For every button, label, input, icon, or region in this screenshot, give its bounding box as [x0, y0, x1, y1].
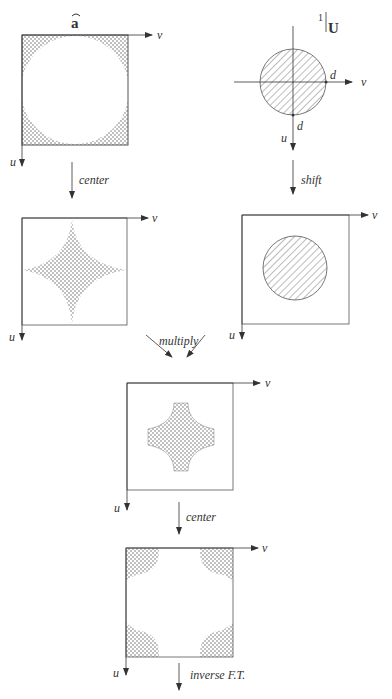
d-marker-v: d [297, 119, 304, 133]
v-axis-label: v [265, 376, 271, 390]
v-axis-label: v [157, 28, 163, 42]
v-axis-label: v [361, 75, 367, 89]
center-arrow-2: center [179, 502, 216, 534]
shift-arrow: shift [293, 160, 322, 194]
panel-title: U [328, 20, 339, 36]
v-axis-label: v [262, 541, 268, 555]
panel-U: d d v u 1 U [234, 12, 367, 150]
op-label: multiply [159, 334, 199, 348]
inverse-ft-arrow: inverse F.T. [179, 663, 245, 690]
u-axis-label: u [10, 155, 16, 169]
panel-a-hat-centered: v u [9, 211, 158, 344]
u-axis-label: u [114, 501, 120, 515]
panel-a-hat: v u a [10, 14, 163, 169]
op-label: center [186, 510, 216, 524]
u-axis-label: u [113, 666, 119, 680]
panel-product: v u [114, 376, 271, 515]
fourier-diagram: v u a center d d v u 1 U shift v u [0, 0, 392, 699]
op-label: center [79, 173, 109, 187]
u-axis-label: u [9, 330, 15, 344]
panel-title: a [71, 15, 79, 31]
panel-product-centered: v u [113, 541, 268, 680]
u-axis-label: u [281, 131, 287, 145]
multiply-arrows: multiply [146, 334, 205, 357]
title-prefix: 1 [318, 12, 323, 23]
center-arrow-1: center [72, 162, 109, 198]
v-axis-label: v [372, 208, 378, 222]
u-axis-label: u [229, 328, 235, 342]
panel-U-shifted: v u [229, 208, 378, 342]
op-label: inverse F.T. [190, 668, 245, 682]
v-axis-label: v [152, 211, 158, 225]
op-label: shift [301, 173, 322, 187]
d-marker-h: d [330, 68, 337, 82]
